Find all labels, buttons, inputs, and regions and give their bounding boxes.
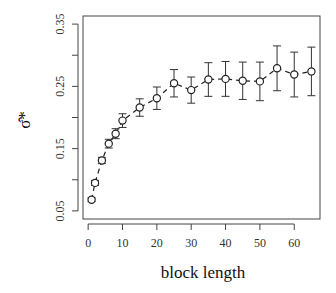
data-point-marker <box>136 104 143 111</box>
x-tick-label: 10 <box>117 236 129 250</box>
data-point-marker <box>205 76 212 83</box>
x-tick-label: 30 <box>185 236 197 250</box>
data-point-marker <box>308 68 315 75</box>
y-tick-label: 0.25 <box>53 76 67 97</box>
y-axis: 0.050.150.250.35 <box>53 14 78 222</box>
data-point-marker <box>98 157 105 164</box>
series-line <box>92 68 312 199</box>
y-tick-label: 0.35 <box>53 14 67 35</box>
data-point-marker <box>273 65 280 72</box>
y-axis-title: σ̂* <box>15 111 34 129</box>
data-point-marker <box>105 140 112 147</box>
data-point-marker <box>153 95 160 102</box>
plot-frame <box>83 16 320 219</box>
error-bar-chart: 0102030405060 0.050.150.250.35 block len… <box>0 0 336 293</box>
data-point-marker <box>239 77 246 84</box>
data-point-marker <box>291 71 298 78</box>
data-point-marker <box>91 179 98 186</box>
y-tick-label: 0.05 <box>53 200 67 221</box>
data-point-marker <box>170 80 177 87</box>
data-point-marker <box>88 196 95 203</box>
data-series <box>88 46 316 203</box>
data-point-marker <box>188 87 195 94</box>
x-tick-label: 40 <box>220 236 232 250</box>
x-axis: 0102030405060 <box>85 224 300 250</box>
data-point-marker <box>222 75 229 82</box>
data-point-marker <box>256 78 263 85</box>
y-axis-title-text: σ̂* <box>15 111 34 129</box>
x-tick-label: 20 <box>151 236 163 250</box>
x-tick-label: 50 <box>254 236 266 250</box>
data-point-marker <box>112 130 119 137</box>
y-tick-label: 0.15 <box>53 138 67 159</box>
x-tick-label: 60 <box>288 236 300 250</box>
data-point-marker <box>119 117 126 124</box>
x-tick-label: 0 <box>85 236 91 250</box>
x-axis-title: block length <box>161 263 246 282</box>
